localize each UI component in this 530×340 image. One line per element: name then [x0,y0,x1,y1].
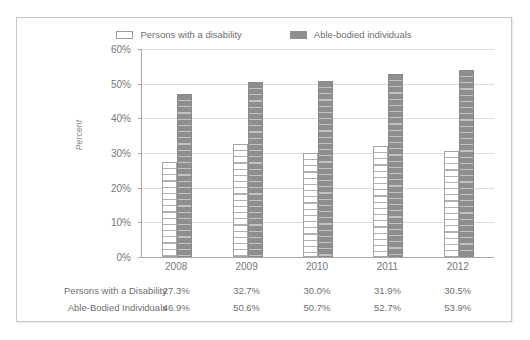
plot-area [141,49,494,258]
bar-2010-series2[interactable] [318,81,333,257]
x-axis-tick-label: 2011 [377,261,399,272]
x-axis-category-labels: 20082009201020112012 [141,261,493,277]
table-cell: 52.7% [374,299,401,316]
table-cell: 27.3% [163,282,190,299]
table-cell: 50.6% [233,299,260,316]
bars-layer [142,49,494,257]
bar-2011-series1[interactable] [373,146,388,257]
table-cell: 50.7% [304,299,331,316]
chart-frame: Persons with a disability Able-bodied in… [16,17,512,322]
y-axis-tick-mark [138,257,142,258]
y-axis-tick-label: 40% [111,113,131,124]
bar-2009-series1[interactable] [233,144,248,257]
bar-group [283,49,353,257]
bar-2009-series2[interactable] [248,82,263,257]
table-row: Persons with a Disability27.3%32.7%30.0%… [27,282,501,299]
x-axis-tick-label: 2009 [235,261,257,272]
chart-data-table: Persons with a Disability27.3%32.7%30.0%… [27,282,501,316]
y-axis-tick-label: 0% [117,252,131,263]
bar-group [212,49,282,257]
y-axis-tick-label: 30% [111,148,131,159]
table-cell: 30.0% [304,282,331,299]
table-cell: 32.7% [233,282,260,299]
y-axis-tick-label: 20% [111,182,131,193]
bar-group [142,49,212,257]
x-axis-tick-label: 2010 [306,261,328,272]
table-cell: 30.5% [444,282,471,299]
x-axis-tick-label: 2012 [447,261,469,272]
plot-wrapper: Percent 0%10%20%30%40%50%60% 20082009201… [17,18,511,321]
bar-group [424,49,494,257]
y-axis-tick-label: 50% [111,78,131,89]
bar-2011-series2[interactable] [388,74,403,257]
table-row-label: Persons with a Disability [27,282,167,299]
table-cell: 53.9% [444,299,471,316]
bar-2012-series1[interactable] [444,151,459,257]
table-cell: 31.9% [374,282,401,299]
y-axis-tick-labels: 0%10%20%30%40%50%60% [77,49,135,257]
x-axis-tick-label: 2008 [165,261,187,272]
y-axis-tick-label: 10% [111,217,131,228]
bar-2008-series2[interactable] [177,94,192,257]
table-row-label: Able-Bodied Individuals [27,299,167,316]
bar-group [353,49,423,257]
y-axis-tick-label: 60% [111,44,131,55]
table-row: Able-Bodied Individuals46.9%50.6%50.7%52… [27,299,501,316]
table-cell: 46.9% [163,299,190,316]
bar-2010-series1[interactable] [303,153,318,257]
bar-2012-series2[interactable] [459,70,474,257]
bar-2008-series1[interactable] [162,162,177,257]
